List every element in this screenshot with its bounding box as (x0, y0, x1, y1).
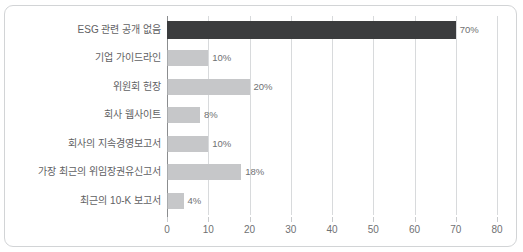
bar-5 (167, 164, 241, 180)
bar-row: 20% (167, 73, 497, 101)
x-tick-label-20: 20 (235, 224, 265, 235)
x-tick-label-40: 40 (317, 224, 347, 235)
x-tick-label-70: 70 (441, 224, 471, 235)
gridline-80 (497, 16, 498, 215)
bar-4 (167, 136, 208, 152)
category-label-3: 회사 웹사이트 (104, 101, 161, 129)
category-label-4: 회사의 지속경영보고서 (68, 130, 161, 158)
bar-0 (167, 21, 456, 39)
bar-row: 18% (167, 158, 497, 186)
bar-value-label-1: 10% (212, 50, 231, 66)
x-tick-label-10: 10 (193, 224, 223, 235)
bar-1 (167, 50, 208, 66)
x-tick-0 (167, 217, 168, 222)
x-tick-70 (456, 217, 457, 222)
x-tick-10 (208, 217, 209, 222)
bar-value-label-6: 4% (188, 193, 202, 209)
category-label-0: ESG 관련 공개 없음 (78, 16, 161, 44)
x-tick-label-60: 60 (400, 224, 430, 235)
x-tick-60 (415, 217, 416, 222)
x-tick-30 (291, 217, 292, 222)
x-tick-label-30: 30 (276, 224, 306, 235)
bar-6 (167, 193, 184, 209)
x-tick-label-50: 50 (358, 224, 388, 235)
esg-disclosure-bar-chart: 0102030405060708070%10%20%8%10%18%4% ESG… (0, 0, 523, 252)
category-label-2: 위원회 헌장 (113, 73, 161, 101)
bar-row: 10% (167, 44, 497, 72)
plot-area: 0102030405060708070%10%20%8%10%18%4% (167, 16, 497, 215)
bar-2 (167, 79, 250, 95)
bar-value-label-0: 70% (460, 22, 479, 38)
chart-title-remnant (150, 0, 370, 4)
x-tick-40 (332, 217, 333, 222)
bar-row: 70% (167, 16, 497, 44)
bar-row: 10% (167, 130, 497, 158)
x-tick-20 (250, 217, 251, 222)
category-label-6: 최근의 10-K 보고서 (80, 187, 161, 215)
bar-row: 8% (167, 101, 497, 129)
x-tick-label-80: 80 (482, 224, 512, 235)
category-label-5: 가장 최근의 위임장권유신고서 (38, 158, 161, 186)
bar-value-label-2: 20% (254, 79, 273, 95)
bar-value-label-4: 10% (212, 136, 231, 152)
bar-3 (167, 107, 200, 123)
bar-row: 4% (167, 187, 497, 215)
category-label-1: 기업 가이드라인 (95, 44, 161, 72)
bar-value-label-3: 8% (204, 107, 218, 123)
x-tick-50 (373, 217, 374, 222)
x-tick-80 (497, 217, 498, 222)
x-tick-label-0: 0 (152, 224, 182, 235)
bar-value-label-5: 18% (245, 164, 264, 180)
